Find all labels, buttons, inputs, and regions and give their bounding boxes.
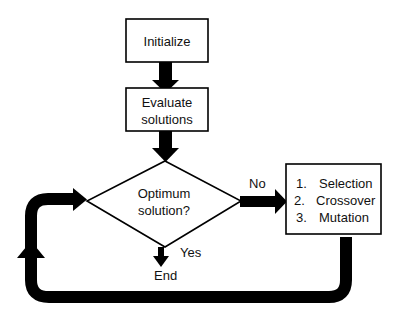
arrow-yes: Yes: [153, 245, 202, 267]
node-initialize-label: Initialize: [144, 34, 191, 49]
node-decision-line-2: solution?: [138, 203, 190, 218]
node-operators: 1. Selection 2. Crossover 3. Mutation: [286, 164, 381, 234]
edge-yes-label: Yes: [180, 245, 202, 260]
operator-1-text: Selection: [319, 176, 372, 191]
operator-3-text: Mutation: [319, 210, 369, 225]
arrow-no: No: [240, 176, 287, 214]
node-decision-line-1: Optimum: [138, 186, 191, 201]
arrow-evaluate-to-decision: [152, 131, 179, 162]
operator-1-num: 1.: [296, 176, 307, 191]
node-evaluate-line-1: Evaluate: [142, 95, 193, 110]
operator-2-num: 2.: [294, 193, 305, 208]
node-evaluate: Evaluate solutions: [126, 88, 208, 131]
edge-no-label: No: [249, 176, 266, 191]
operator-3-num: 3.: [296, 210, 307, 225]
flowchart-canvas: Initialize Evaluate solutions Optimum so…: [0, 0, 399, 317]
node-initialize: Initialize: [126, 19, 208, 62]
node-decision: Optimum solution?: [87, 161, 241, 247]
node-end-label: End: [154, 268, 177, 283]
operator-2-text: Crossover: [316, 193, 376, 208]
node-evaluate-line-2: solutions: [141, 112, 193, 127]
